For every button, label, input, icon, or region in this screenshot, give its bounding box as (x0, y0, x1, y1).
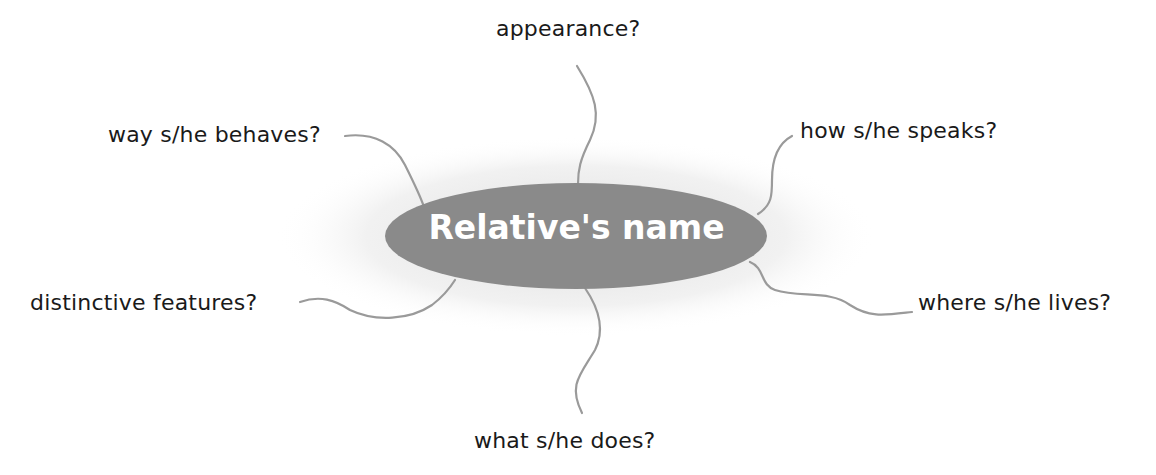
branch-label-distinctive: distinctive features? (30, 290, 257, 315)
branch-label-appearance: appearance? (496, 16, 640, 41)
center-node-label: Relative's name (385, 208, 768, 247)
branch-label-what-does: what s/he does? (474, 428, 655, 453)
branch-label-where-lives: where s/he lives? (918, 290, 1111, 315)
branch-label-behaves: way s/he behaves? (108, 122, 321, 147)
branch-label-how-speaks: how s/he speaks? (800, 118, 997, 143)
